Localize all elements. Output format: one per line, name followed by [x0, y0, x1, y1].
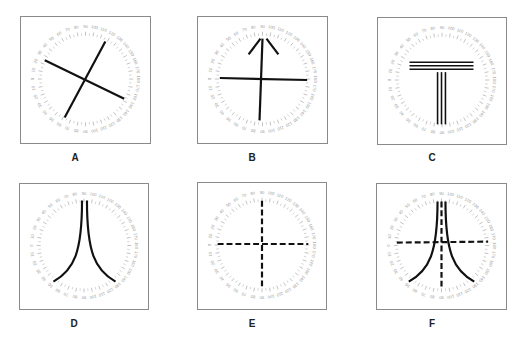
- dial-degree-label: 160: [308, 259, 315, 268]
- dial-degree-label: 40: [41, 41, 48, 48]
- dial-degree-label: 70: [241, 26, 248, 32]
- dial-panel-b: 0101020203030404050506060707080809090100…: [197, 16, 328, 144]
- dial-panel-e: 0101020203030404050506060707080809090100…: [197, 182, 327, 310]
- dial-degree-label: 90: [439, 191, 444, 196]
- dial-degree-label: 110: [98, 193, 107, 200]
- dial-degree-label: 80: [73, 128, 79, 134]
- dial-degree-label: 120: [464, 31, 473, 39]
- dial-degree-label: 180: [136, 76, 141, 84]
- dial-degree-label: 0: [29, 244, 34, 247]
- dial-degree-label: 60: [232, 196, 239, 203]
- dial-degree-label: 10: [387, 86, 393, 92]
- dial-degree-label: 130: [472, 36, 481, 45]
- dial-degree-label: 60: [55, 121, 62, 128]
- dial-degree-label: 70: [62, 291, 69, 297]
- dial-degree-label: 150: [304, 48, 312, 57]
- dial-degree-label: 60: [412, 122, 419, 129]
- dial-degree-label: 60: [54, 287, 61, 294]
- dial-degree-label: 80: [250, 128, 256, 134]
- dial-degree-label: 130: [292, 35, 301, 44]
- dial-degree-label: 50: [225, 115, 232, 122]
- dial-degree-label: 100: [268, 24, 276, 30]
- left-curve: [53, 201, 82, 282]
- dial-degree-label: 50: [405, 36, 412, 43]
- dial-degree-label: 160: [488, 224, 495, 233]
- dial-degree-label: 10: [207, 233, 213, 239]
- dial-degree-label: 100: [91, 24, 99, 30]
- dial-degree-label: 180: [313, 76, 318, 84]
- dial-degree-label: 40: [397, 208, 404, 215]
- dial-degree-label: 120: [463, 287, 472, 295]
- dial-degree-label: 110: [276, 125, 285, 132]
- dial-degree-label: 40: [218, 207, 225, 214]
- dial-degree-label: 20: [31, 260, 38, 267]
- dial-panel-f: 0101020203030404050506060707080809090100…: [376, 183, 507, 310]
- dial-degree-label: 40: [397, 275, 404, 282]
- dial-degree-label: 60: [412, 31, 419, 38]
- dial-degree-label: 40: [398, 110, 405, 117]
- dial-degree-label: 140: [298, 207, 307, 216]
- dial-degree-label: 150: [127, 101, 135, 110]
- dial-degree-label: 90: [82, 191, 87, 196]
- dial-degree-label: 120: [105, 287, 114, 295]
- right-curve: [87, 201, 116, 282]
- dial-degree-label: 30: [35, 216, 42, 223]
- dial-degree-label: 30: [36, 101, 43, 108]
- dial-degree-label: 160: [130, 259, 137, 268]
- dial-drawing: 0101020203030404050506060707080809090100…: [20, 184, 148, 309]
- dial-degree-label: 50: [404, 202, 411, 209]
- dial-degree-label: 150: [483, 215, 491, 224]
- dial-degree-label: 70: [420, 126, 427, 133]
- dial-degree-label: 90: [440, 25, 445, 30]
- dial-degree-label: 80: [74, 24, 80, 30]
- dial-degree-label: 80: [430, 25, 436, 31]
- dial-degree-label: 120: [285, 30, 294, 38]
- dial-degree-label: 170: [311, 232, 317, 240]
- dial-degree-label: 20: [388, 260, 395, 267]
- dial-degree-label: 70: [241, 125, 248, 131]
- dial-degree-label: 110: [455, 291, 464, 298]
- dial-degree-label: 100: [267, 294, 275, 300]
- dial-degree-label: 30: [392, 268, 399, 275]
- arrowhead-left-stroke: [249, 39, 261, 55]
- dial-degree-label: 160: [132, 57, 139, 66]
- dial-drawing: 0101020203030404050506060707080809090100…: [198, 17, 327, 143]
- dial-degree-label: 40: [218, 275, 225, 282]
- dial-degree-label: 0: [387, 78, 392, 81]
- dial-degree-label: 100: [267, 190, 275, 196]
- dial-degree-label: 160: [132, 93, 139, 102]
- dial-degree-label: 20: [31, 224, 38, 231]
- dial-degree-label: 130: [471, 116, 480, 125]
- dial-degree-label: 70: [240, 291, 247, 298]
- horizontal-line: [220, 78, 307, 80]
- dial-degree-label: 0: [386, 244, 391, 247]
- dial-degree-label: 100: [447, 25, 455, 31]
- dial-degree-label: 0: [207, 77, 212, 80]
- dial-degree-label: 120: [284, 196, 293, 204]
- dial-degree-label: 60: [411, 287, 418, 294]
- dial-degree-label: 90: [81, 295, 86, 300]
- dial-degree-label: 140: [298, 275, 307, 284]
- dial-degree-label: 170: [133, 251, 139, 259]
- dial-degree-label: 130: [292, 115, 301, 124]
- dial-degree-label: 110: [276, 192, 285, 199]
- dial-degree-label: 130: [113, 281, 122, 290]
- dial-degree-label: 90: [439, 130, 444, 135]
- dial-degree-label: 50: [404, 116, 411, 123]
- panel-label-e: E: [242, 318, 262, 329]
- dial-degree-label: 120: [106, 196, 115, 204]
- dial-degree-label: 120: [283, 287, 292, 295]
- dial-degree-label: 0: [30, 77, 35, 80]
- dial-panel-c: 0101020203030404050506060707080809090100…: [377, 17, 507, 145]
- dial-degree-label: 110: [455, 126, 464, 133]
- dial-degree-label: 10: [207, 67, 213, 73]
- dial-degree-label: 80: [72, 191, 78, 197]
- dial-degree-label: 150: [304, 101, 312, 110]
- dial-degree-label: 10: [29, 233, 35, 239]
- panel-label-c: C: [422, 152, 442, 163]
- dial-degree-label: 80: [249, 294, 255, 300]
- dial-degree-label: 50: [48, 115, 55, 122]
- dial-degree-label: 20: [209, 223, 216, 230]
- dial-degree-label: 80: [71, 294, 77, 300]
- dial-degree-label: 110: [277, 26, 286, 33]
